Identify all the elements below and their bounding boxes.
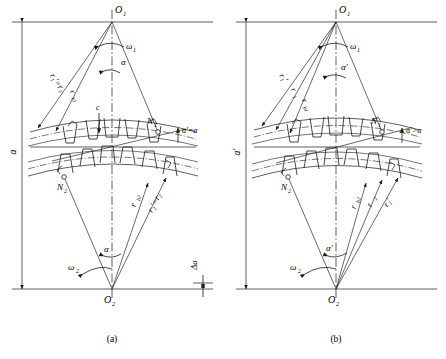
panel-a-n2-sub: 2 [64,188,67,194]
panel-a-clearance-label: c [96,103,100,112]
panel-a-o1-sub: 1 [123,10,126,17]
panel-b-contact-point-n1 [380,130,385,135]
panel-a-o1-label: O [115,4,122,15]
panel-b-angle-relation-label: α'>α [406,126,422,135]
panel-a-contact-point-n1 [156,130,161,135]
panel-b-omega2-sub: 2 [298,268,301,274]
panel-a-delta-a-label: Δa [189,260,199,270]
panel-b-o2-label: O [328,294,335,305]
panel-b-n2-label: N [280,182,288,192]
panel-a-omega1-label: ω [126,41,132,51]
panel-a-n1-label: N [146,116,154,126]
panel-b-contact-point-n2 [286,175,291,180]
panel-a-alpha-bottom-label: α [104,244,109,254]
panel-a-caption: (a) [107,334,118,345]
panel-a-omega2-label: ω [68,262,74,272]
panel-b-alpha-top-label: α' [341,62,349,72]
panel-a-n2-label: N [56,182,64,192]
panel-a-n1-sub: 1 [154,122,157,128]
panel-b-o1-sub: 1 [347,10,350,17]
panel-a-alpha-top-label: α [121,57,126,67]
panel-b-o1-label: O [339,4,346,15]
gear-meshing-figure: a [0,0,446,359]
panel-a-angle-relation-label: α'=α [182,126,198,135]
panel-b-omega1-sub: 1 [357,47,360,53]
panel-b-n1-sub: 1 [378,122,381,128]
panel-b-n1-label: N [370,116,378,126]
figure-canvas: a [0,0,446,359]
panel-b-caption: (b) [330,334,341,345]
panel-a-omega2-sub: 2 [76,268,79,274]
panel-b-n2-sub: 2 [288,188,291,194]
panel-a-contact-point-n2 [62,175,67,180]
panel-b-alpha-bottom-label: α' [326,243,334,253]
figure-background [0,0,446,359]
panel-b-omega1-label: ω [350,41,356,51]
panel-a-o2-label: O [104,294,111,305]
panel-a-centre-distance-label: a [8,149,18,154]
panel-b-centre-distance-label: a' [232,148,242,156]
panel-a-omega1-sub: 1 [133,47,136,53]
panel-b-omega2-label: ω [290,262,296,272]
